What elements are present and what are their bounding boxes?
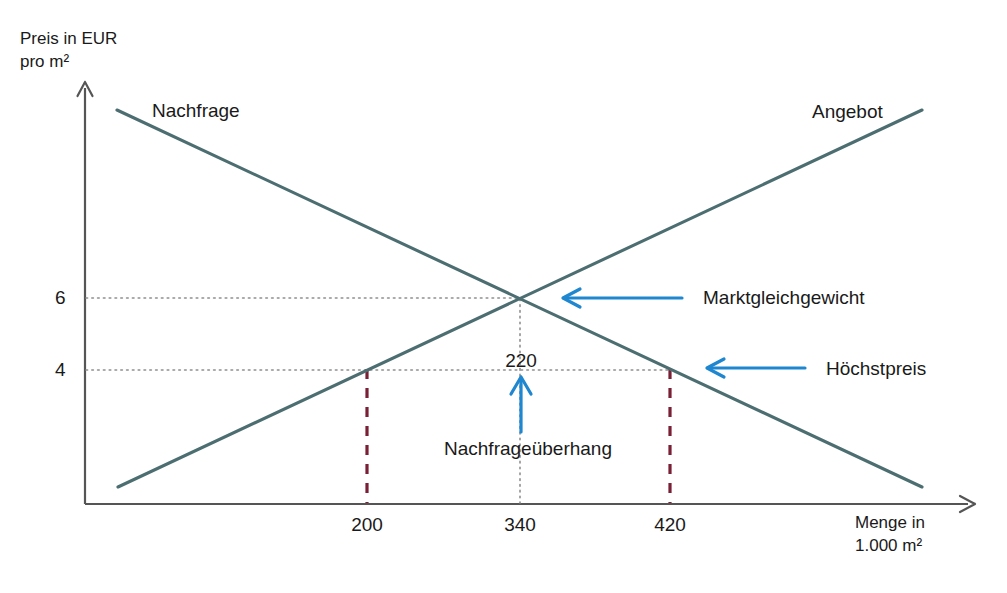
demand-curve-label: Nachfrage bbox=[152, 99, 240, 123]
equilibrium-label: Marktgleichgewicht bbox=[703, 286, 865, 310]
excess-demand-value: 220 bbox=[505, 349, 537, 373]
x-axis-title-line1: Menge in bbox=[855, 512, 925, 534]
equilibrium-arrow-icon bbox=[563, 289, 682, 307]
x-axis-title-line2: 1.000 m² bbox=[855, 535, 922, 557]
excess-demand-markers-group bbox=[367, 369, 670, 503]
excess-demand-arrow-icon bbox=[511, 377, 531, 432]
price-ceiling-label: Höchstpreis bbox=[826, 357, 926, 381]
x-tick-label-200: 200 bbox=[351, 513, 383, 537]
supply-curve-label: Angebot bbox=[812, 100, 883, 124]
x-tick-label-340: 340 bbox=[504, 513, 536, 537]
y-tick-label-6: 6 bbox=[55, 286, 66, 310]
y-tick-label-4: 4 bbox=[55, 358, 66, 382]
supply-demand-chart: Preis in EUR pro m² Menge in 1.000 m² 6 … bbox=[0, 0, 1007, 593]
y-axis-title-line1: Preis in EUR bbox=[20, 28, 117, 50]
excess-demand-label: Nachfrageüberhang bbox=[444, 437, 612, 461]
price-ceiling-arrow-icon bbox=[707, 359, 805, 377]
y-axis-title-line2: pro m² bbox=[20, 51, 69, 73]
x-tick-label-420: 420 bbox=[654, 513, 686, 537]
